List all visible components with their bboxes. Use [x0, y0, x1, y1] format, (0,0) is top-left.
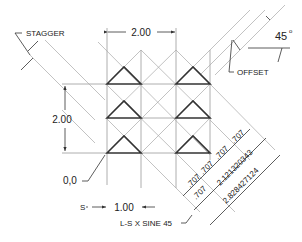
width-dimension-label: 2.00 [131, 27, 151, 38]
origin-label: 0,0 [63, 175, 77, 186]
angle-label: 45 [275, 30, 287, 42]
dim-707-4: .707 [229, 128, 247, 146]
triangle-pattern [107, 67, 210, 153]
stagger-label: STAGGER [26, 29, 65, 38]
dim-707-3: .707 [213, 144, 231, 162]
offset-label: OFFSET [237, 68, 269, 77]
hatch-pattern-drawing: 2.00 2.00 STAGGER OFFSET 45 o 0,0 S 1.00… [0, 0, 302, 242]
formula-leader [181, 215, 192, 223]
dim-707-2: .707 [198, 159, 216, 177]
s-label: S [80, 203, 85, 212]
stagger-leader [15, 33, 38, 70]
angle-degree-mark: o [289, 28, 293, 34]
origin-leader [82, 155, 105, 181]
height-dimension-label: 2.00 [52, 114, 72, 125]
spacing-dimension-label: 1.00 [114, 202, 134, 213]
offset-leader [229, 16, 290, 72]
grid-vertical-lines [107, 28, 210, 188]
formula-label: L-S X SINE 45 [120, 219, 173, 228]
